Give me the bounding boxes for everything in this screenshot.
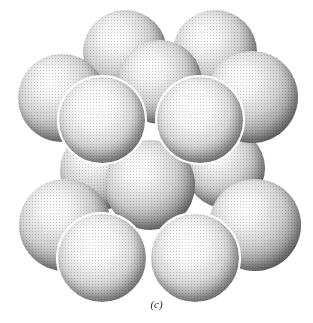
sphere-top-front-left bbox=[57, 75, 147, 165]
sphere-bottom-front-left bbox=[56, 212, 148, 304]
sphere-top-front-right bbox=[155, 75, 245, 165]
figure-caption: (c) bbox=[0, 298, 313, 310]
sphere-bottom-front-right bbox=[149, 212, 241, 304]
figure-canvas: (c) bbox=[0, 0, 313, 323]
